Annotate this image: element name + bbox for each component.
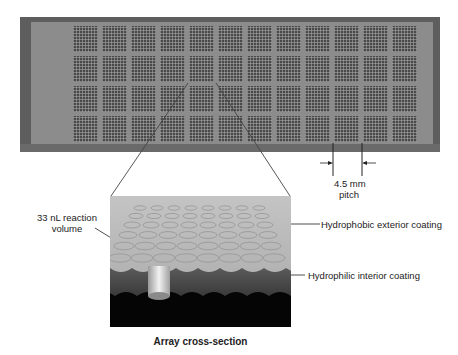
array-cross-section-illustration [110, 196, 291, 327]
hydrophobic-callout: Hydrophobic exterior coating [321, 219, 442, 230]
zoom-line-left [111, 83, 188, 196]
reaction-well-liquid [148, 266, 170, 296]
pitch-label: 4.5 mm pitch [334, 178, 364, 200]
zoom-line-right [216, 83, 290, 196]
reaction-volume-line1: 33 nL reaction [28, 212, 106, 223]
pitch-arrow-left-icon [328, 161, 333, 165]
reaction-volume-callout: 33 nL reaction volume [28, 212, 106, 234]
pitch-value: 4.5 mm [334, 178, 364, 189]
hydrophilic-callout: Hydrophilic interior coating [308, 270, 420, 281]
hydrophilic-wall [110, 268, 291, 296]
pitch-word: pitch [334, 189, 364, 200]
pitch-arrow-right-icon [362, 161, 367, 165]
reaction-volume-line2: volume [28, 223, 106, 234]
figure-caption: Array cross-section [110, 336, 291, 347]
